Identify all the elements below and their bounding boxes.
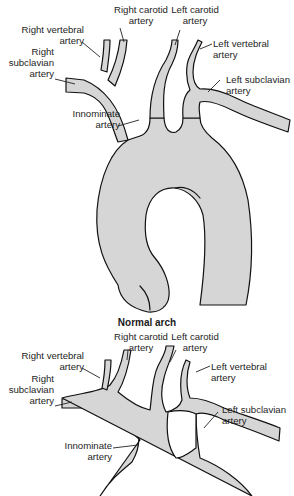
label-right-vertebral-variant: Right vertebral artery [6, 350, 84, 372]
label-innominate-normal: Innominate artery [60, 108, 120, 130]
label-innominate-variant: Innominate artery [52, 440, 112, 462]
label-left-vertebral-variant: Left vertebral artery [211, 361, 267, 383]
label-left-subclavian-variant: Left subclavian artery [222, 404, 286, 426]
aorta [97, 118, 252, 312]
label-left-vertebral-normal: Left vertebral artery [213, 38, 269, 60]
label-right-subclavian-variant: Right subclavian artery [0, 373, 54, 406]
label-left-subclavian-normal: Left subclavian artery [226, 74, 290, 96]
normal-arch-illustration [55, 28, 290, 312]
left-carotid-normal [150, 40, 178, 118]
caption-normal-arch: Normal arch [0, 317, 294, 328]
label-right-subclavian-normal: Right subclavian artery [0, 46, 54, 79]
label-left-carotid-normal: Left carotid artery [160, 4, 230, 26]
label-right-vertebral-normal: Right vertebral artery [6, 24, 84, 46]
label-left-carotid-variant: Left carotid artery [160, 331, 230, 353]
